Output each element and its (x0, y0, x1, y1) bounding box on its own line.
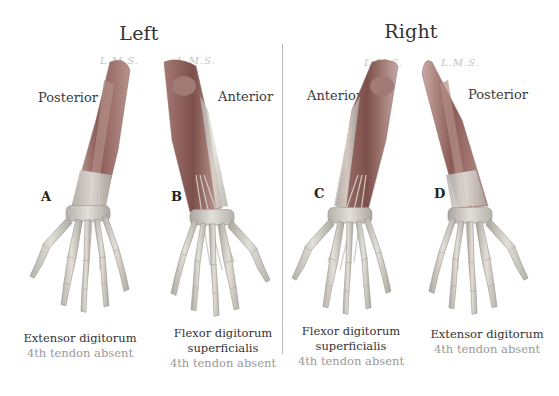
panel-a-note: 4th tendon absent (5, 346, 155, 361)
panel-a-muscle-name: Extensor digitorum (5, 331, 155, 346)
panel-a-illustration (30, 60, 130, 312)
panel-c-caption: Flexor digitorum superficialis 4th tendo… (276, 324, 426, 369)
panel-c-muscle-name: Flexor digitorum (276, 324, 426, 339)
panel-d-caption: Extensor digitorum 4th tendon absent (412, 327, 559, 357)
panel-d-illustration (422, 61, 528, 315)
panel-b-illustration (164, 60, 270, 317)
panel-d-note: 4th tendon absent (412, 342, 559, 357)
panel-a-caption: Extensor digitorum 4th tendon absent (5, 331, 155, 361)
panel-c-illustration (292, 60, 398, 315)
panel-c-note: 4th tendon absent (276, 354, 426, 369)
panel-c-muscle-name-line2: superficialis (276, 339, 426, 354)
panel-d-muscle-name: Extensor digitorum (412, 327, 559, 342)
